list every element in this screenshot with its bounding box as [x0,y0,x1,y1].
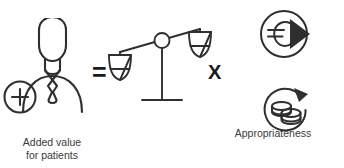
equals-operator: = [92,60,107,85]
coins-cycle-icon [258,84,314,136]
value-fraction: Outcomes Cost over the full cycle of car… [226,2,344,168]
added-value-term: Added value for patients [2,18,98,166]
person-plus-icon [2,18,98,130]
euro-play-icon [259,8,313,60]
added-value-caption: Added value for patients [4,136,100,161]
balance-scale-icon [108,14,220,114]
multiply-operator: X [208,62,221,82]
appropriateness-term: Appropriateness [108,14,220,164]
value-equation-diagram: Added value for patients = [0,0,344,168]
